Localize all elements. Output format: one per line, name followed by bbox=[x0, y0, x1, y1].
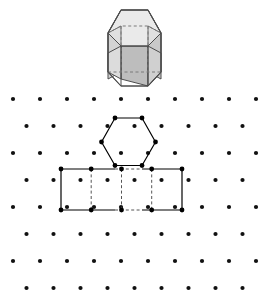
grid-dot bbox=[159, 124, 163, 128]
grid-dot bbox=[78, 124, 82, 128]
net-vertex-dot bbox=[140, 116, 145, 121]
net-vertex-dot bbox=[89, 167, 94, 172]
grid-dot bbox=[24, 286, 28, 290]
grid-dot bbox=[146, 205, 150, 209]
hexagonal-prism-3d bbox=[108, 10, 161, 86]
net-vertex-dot bbox=[89, 208, 94, 213]
grid-dot bbox=[24, 178, 28, 182]
grid-dot bbox=[146, 97, 150, 101]
grid-dot bbox=[213, 178, 217, 182]
net-vertex-dot bbox=[59, 167, 64, 172]
grid-dot bbox=[200, 205, 204, 209]
grid-dot bbox=[240, 124, 244, 128]
grid-dot bbox=[92, 97, 96, 101]
grid-dot bbox=[119, 151, 123, 155]
net-vertex-dot bbox=[59, 208, 64, 213]
grid-dot bbox=[11, 205, 15, 209]
grid-dot bbox=[200, 97, 204, 101]
grid-dot bbox=[159, 178, 163, 182]
grid-dot bbox=[213, 232, 217, 236]
grid-dot bbox=[227, 97, 231, 101]
grid-dot bbox=[146, 259, 150, 263]
grid-dot bbox=[132, 178, 136, 182]
grid-dot bbox=[200, 151, 204, 155]
grid-dot bbox=[254, 259, 258, 263]
net-vertex-dot bbox=[180, 208, 185, 213]
grid-dot bbox=[159, 232, 163, 236]
figure-root: Hexagonal Prism and Partial Net on Isome… bbox=[0, 0, 271, 296]
grid-dot bbox=[11, 259, 15, 263]
grid-dot bbox=[119, 259, 123, 263]
grid-dot bbox=[78, 232, 82, 236]
grid-dot bbox=[105, 124, 109, 128]
net-vertex-dot bbox=[149, 167, 154, 172]
grid-dot bbox=[92, 259, 96, 263]
grid-dot bbox=[132, 286, 136, 290]
grid-dot bbox=[173, 205, 177, 209]
grid-dot bbox=[105, 232, 109, 236]
grid-dot bbox=[78, 178, 82, 182]
illustration-canvas bbox=[0, 0, 271, 296]
grid-dot bbox=[186, 124, 190, 128]
grid-dot bbox=[65, 259, 69, 263]
grid-dot bbox=[24, 232, 28, 236]
grid-dot bbox=[92, 151, 96, 155]
grid-dot bbox=[254, 151, 258, 155]
grid-dot bbox=[227, 259, 231, 263]
grid-dot bbox=[65, 151, 69, 155]
net-vertex-dot bbox=[149, 208, 154, 213]
grid-dot bbox=[240, 178, 244, 182]
grid-dot bbox=[105, 286, 109, 290]
grid-dot bbox=[213, 286, 217, 290]
grid-dot bbox=[132, 232, 136, 236]
grid-dot bbox=[254, 97, 258, 101]
net-vertex-dot bbox=[180, 167, 185, 172]
prism-face-shaded bbox=[121, 46, 148, 86]
grid-dot bbox=[227, 205, 231, 209]
net-vertex-dot bbox=[153, 140, 158, 145]
grid-dot bbox=[240, 286, 244, 290]
net-vertex-dot bbox=[113, 163, 118, 168]
grid-dot bbox=[186, 286, 190, 290]
grid-dot bbox=[65, 205, 69, 209]
grid-dot bbox=[254, 205, 258, 209]
grid-dot bbox=[11, 97, 15, 101]
grid-dot bbox=[51, 286, 55, 290]
grid-dot bbox=[24, 124, 28, 128]
net-vertex-dot bbox=[140, 163, 145, 168]
grid-dot bbox=[159, 286, 163, 290]
grid-dot bbox=[132, 124, 136, 128]
grid-dot bbox=[38, 97, 42, 101]
grid-dot bbox=[38, 205, 42, 209]
grid-dot bbox=[173, 151, 177, 155]
grid-dot bbox=[65, 97, 69, 101]
grid-dot bbox=[38, 259, 42, 263]
grid-dot bbox=[240, 232, 244, 236]
grid-dot bbox=[105, 178, 109, 182]
grid-dot bbox=[119, 97, 123, 101]
grid-dot bbox=[186, 232, 190, 236]
grid-dot bbox=[173, 97, 177, 101]
grid-dot bbox=[51, 124, 55, 128]
grid-dot bbox=[38, 151, 42, 155]
grid-dot bbox=[51, 232, 55, 236]
grid-dot bbox=[227, 151, 231, 155]
grid-dot bbox=[200, 259, 204, 263]
grid-dot bbox=[173, 259, 177, 263]
grid-dot bbox=[51, 178, 55, 182]
grid-dot bbox=[11, 151, 15, 155]
grid-dot bbox=[213, 124, 217, 128]
grid-dot bbox=[78, 286, 82, 290]
net-vertex-dot bbox=[119, 167, 124, 172]
net-vertex-dot bbox=[99, 140, 104, 145]
net-vertex-dot bbox=[119, 208, 124, 213]
grid-dot bbox=[186, 178, 190, 182]
net-vertex-dot bbox=[113, 116, 118, 121]
